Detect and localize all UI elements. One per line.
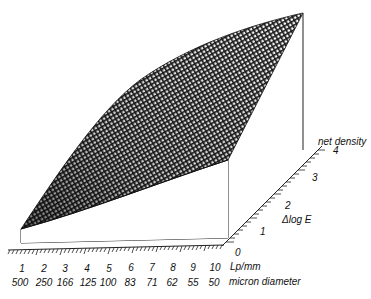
x-secondary-tick: 166 (57, 277, 74, 288)
x-tick: 4 (84, 263, 90, 274)
x-secondary-tick: 250 (36, 277, 53, 288)
y-tick: 1 (260, 226, 266, 237)
x-tick: 8 (170, 262, 176, 273)
x-secondary-tick: 83 (124, 277, 135, 288)
x-tick: 2 (41, 263, 47, 274)
x-tick: 7 (149, 262, 155, 273)
y-axis (222, 146, 325, 246)
x-secondary-tick: 100 (100, 277, 117, 288)
x-tick: 10 (209, 262, 220, 273)
x-secondary-tick: 125 (80, 277, 97, 288)
x-secondary-tick: 71 (146, 277, 157, 288)
x-tick: 9 (190, 262, 196, 273)
x-axis (8, 245, 224, 255)
x-secondary-tick: 500 (12, 277, 29, 288)
x-tick: 1 (19, 263, 25, 274)
x-tick: 6 (128, 262, 134, 273)
x-tick: 5 (106, 263, 112, 274)
x-secondary-axis-label: micron diameter (229, 277, 301, 287)
surface-plot (0, 0, 371, 299)
z-axis-label: net density (318, 137, 366, 147)
x-axis-label: Lp/mm (230, 262, 261, 272)
y-tick: 0 (235, 247, 241, 258)
x-secondary-tick: 62 (166, 277, 177, 288)
x-tick: 3 (62, 263, 68, 274)
y-axis-label: Δlog E (282, 215, 312, 225)
x-secondary-tick: 55 (187, 277, 198, 288)
x-secondary-tick: 50 (208, 277, 219, 288)
y-tick: 2 (285, 200, 291, 211)
y-tick: 3 (312, 172, 318, 183)
